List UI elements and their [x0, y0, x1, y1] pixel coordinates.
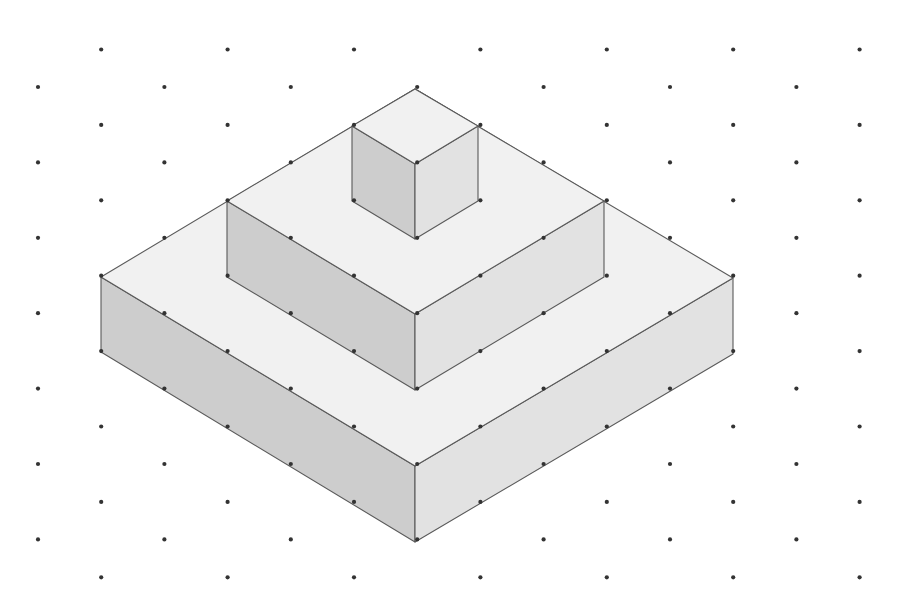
- grid-dot: [162, 462, 166, 466]
- grid-dot: [289, 236, 293, 240]
- grid-dot: [162, 311, 166, 315]
- grid-dot: [478, 123, 482, 127]
- grid-dot: [415, 236, 419, 240]
- grid-dot: [289, 85, 293, 89]
- grid-dot: [226, 123, 230, 127]
- grid-dot: [794, 236, 798, 240]
- grid-dot: [731, 47, 735, 51]
- grid-dot: [352, 424, 356, 428]
- grid-dot: [162, 537, 166, 541]
- grid-dot: [415, 462, 419, 466]
- grid-dot: [858, 575, 862, 579]
- grid-dot: [542, 85, 546, 89]
- grid-dot: [794, 160, 798, 164]
- grid-dot: [289, 387, 293, 391]
- grid-dot: [226, 47, 230, 51]
- grid-dot: [99, 349, 103, 353]
- grid-dot: [794, 311, 798, 315]
- grid-dot: [731, 123, 735, 127]
- grid-dot: [731, 274, 735, 278]
- grid-dot: [605, 349, 609, 353]
- grid-dot: [478, 424, 482, 428]
- grid-dot: [415, 387, 419, 391]
- grid-dot: [352, 274, 356, 278]
- grid-dot: [162, 160, 166, 164]
- grid-dot: [352, 47, 356, 51]
- grid-dot: [36, 160, 40, 164]
- grid-dot: [731, 500, 735, 504]
- grid-dot: [542, 387, 546, 391]
- grid-dot: [36, 236, 40, 240]
- grid-dot: [289, 311, 293, 315]
- grid-dot: [478, 575, 482, 579]
- grid-dot: [352, 349, 356, 353]
- isometric-diagram: [0, 0, 914, 610]
- grid-dot: [226, 500, 230, 504]
- grid-dot: [542, 311, 546, 315]
- grid-dot: [668, 160, 672, 164]
- grid-dot: [478, 349, 482, 353]
- grid-dot: [605, 47, 609, 51]
- grid-dot: [668, 537, 672, 541]
- grid-dot: [668, 311, 672, 315]
- grid-dot: [542, 462, 546, 466]
- grid-dot: [794, 537, 798, 541]
- grid-dot: [289, 160, 293, 164]
- grid-dot: [99, 274, 103, 278]
- grid-dot: [36, 462, 40, 466]
- grid-dot: [352, 575, 356, 579]
- grid-dot: [794, 387, 798, 391]
- grid-dot: [478, 47, 482, 51]
- grid-dot: [731, 575, 735, 579]
- grid-dot: [415, 160, 419, 164]
- grid-dot: [289, 462, 293, 466]
- grid-dot: [36, 387, 40, 391]
- grid-dot: [99, 575, 103, 579]
- grid-dot: [36, 85, 40, 89]
- grid-dot: [542, 236, 546, 240]
- grid-dot: [226, 349, 230, 353]
- grid-dot: [731, 424, 735, 428]
- grid-dot: [794, 462, 798, 466]
- grid-dot: [668, 236, 672, 240]
- grid-dot: [605, 575, 609, 579]
- grid-dot: [99, 198, 103, 202]
- grid-dot: [605, 198, 609, 202]
- grid-dot: [858, 274, 862, 278]
- grid-dot: [605, 123, 609, 127]
- grid-dot: [226, 575, 230, 579]
- grid-dot: [352, 198, 356, 202]
- grid-dot: [858, 424, 862, 428]
- grid-dot: [99, 123, 103, 127]
- grid-dot: [858, 500, 862, 504]
- grid-dot: [99, 424, 103, 428]
- grid-dot: [36, 537, 40, 541]
- grid-dot: [542, 160, 546, 164]
- grid-dot: [605, 274, 609, 278]
- grid-dot: [668, 387, 672, 391]
- grid-dot: [478, 198, 482, 202]
- grid-dot: [542, 537, 546, 541]
- grid-dot: [731, 349, 735, 353]
- grid-dot: [858, 47, 862, 51]
- grid-dot: [226, 198, 230, 202]
- grid-dot: [605, 500, 609, 504]
- grid-dot: [162, 236, 166, 240]
- grid-dot: [794, 85, 798, 89]
- grid-dot: [731, 198, 735, 202]
- grid-dot: [858, 123, 862, 127]
- grid-dot: [162, 85, 166, 89]
- grid-dot: [162, 387, 166, 391]
- grid-dot: [858, 198, 862, 202]
- grid-dot: [858, 349, 862, 353]
- grid-dot: [415, 537, 419, 541]
- grid-dot: [668, 462, 672, 466]
- grid-dot: [226, 274, 230, 278]
- grid-dot: [99, 500, 103, 504]
- grid-dot: [352, 500, 356, 504]
- grid-dot: [99, 47, 103, 51]
- grid-dot: [605, 424, 609, 428]
- grid-dot: [289, 537, 293, 541]
- grid-dot: [36, 311, 40, 315]
- grid-dot: [226, 424, 230, 428]
